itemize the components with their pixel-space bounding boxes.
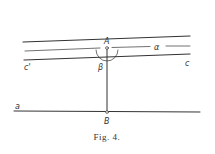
label-B: B bbox=[104, 117, 110, 126]
label-beta: β bbox=[97, 63, 103, 72]
label-a: a bbox=[15, 102, 20, 111]
geometry-diagram: A α β c c' a B Fig. 4. bbox=[0, 0, 215, 154]
label-alpha: α bbox=[154, 43, 160, 52]
label-c: c bbox=[185, 59, 190, 68]
figure-caption: Fig. 4. bbox=[94, 132, 121, 142]
figure-4: A α β c c' a B Fig. 4. bbox=[0, 0, 215, 154]
point-A bbox=[106, 47, 109, 50]
label-c-prime: c' bbox=[24, 63, 31, 72]
line-middle-left bbox=[25, 48, 100, 51]
label-A: A bbox=[103, 37, 109, 46]
point-B bbox=[106, 111, 109, 114]
line-middle-right-inner bbox=[112, 47, 150, 48]
